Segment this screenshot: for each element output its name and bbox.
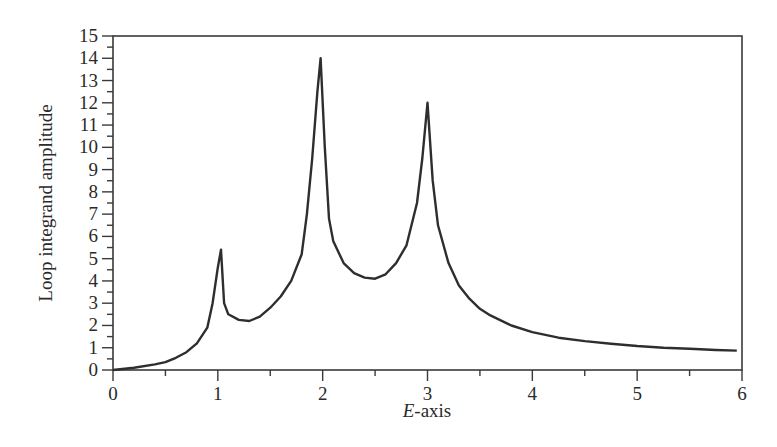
x-axis-title-rest: -axis [414,400,451,421]
y-tick-label: 7 [89,203,99,224]
y-tick-label: 2 [89,314,99,335]
y-tick-label: 10 [79,136,98,157]
y-tick-label: 1 [89,337,99,358]
x-axis-title-italic: E [402,400,415,421]
y-tick-label: 8 [89,181,99,202]
y-tick-label: 6 [89,225,99,246]
y-tick-label: 9 [89,159,99,180]
y-axis-title: Loop integrand amplitude [35,104,56,301]
y-axis-title-group: Loop integrand amplitude [35,104,56,301]
x-tick-label: 5 [632,383,642,404]
x-tick-label: 1 [213,383,223,404]
plot-frame [113,36,742,370]
y-tick-label: 5 [89,248,99,269]
x-tick-label: 3 [423,383,433,404]
x-tick-label: 0 [108,383,118,404]
y-tick-label: 4 [89,270,99,291]
x-tick-label: 2 [318,383,328,404]
line-chart: Loop integrand amplitude E-axis 01234560… [0,0,777,447]
y-tick-label: 14 [79,47,99,68]
y-tick-label: 15 [79,25,98,46]
y-tick-label: 0 [89,359,99,380]
axis-ticks [102,36,742,381]
data-series-line [113,58,737,370]
y-tick-label: 13 [79,70,98,91]
x-tick-label: 4 [528,383,538,404]
y-tick-label: 11 [80,114,98,135]
y-tick-label: 12 [79,92,98,113]
y-tick-label: 3 [89,292,99,313]
x-tick-label: 6 [737,383,747,404]
